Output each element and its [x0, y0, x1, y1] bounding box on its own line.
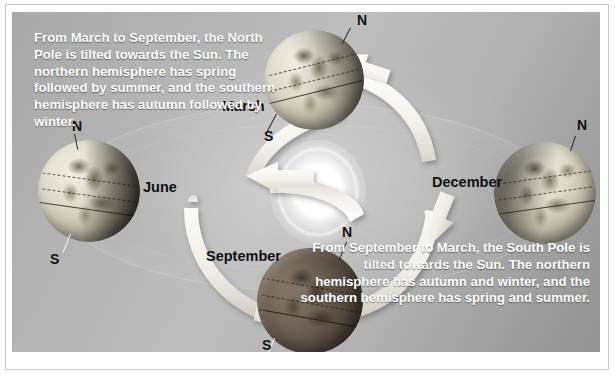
globe-june [38, 140, 140, 242]
globe-december-rim [494, 142, 596, 244]
caption-bottom-right: From September to March, the South Pole … [290, 240, 590, 307]
globe-march-north-label: N [357, 13, 367, 27]
seasons-diagram: N S March N S June [0, 0, 615, 376]
globe-june-south-label: S [50, 252, 59, 266]
globe-june-rim [38, 140, 140, 242]
globe-march-south-label: S [264, 129, 273, 143]
globe-september-north-label: N [342, 225, 352, 239]
globe-december [494, 142, 596, 244]
globe-september-month-label: September [206, 249, 281, 264]
globe-september-south-label: S [262, 338, 271, 352]
sun-core [292, 164, 344, 218]
globe-december-north-label: N [577, 118, 587, 132]
diagram-panel: N S March N S June [12, 12, 600, 352]
globe-december-north-axis [570, 136, 576, 152]
globe-december-month-label: December [432, 175, 502, 190]
globe-june-month-label: June [143, 180, 177, 195]
caption-top-left: From March to September, the North Pole … [34, 30, 292, 131]
